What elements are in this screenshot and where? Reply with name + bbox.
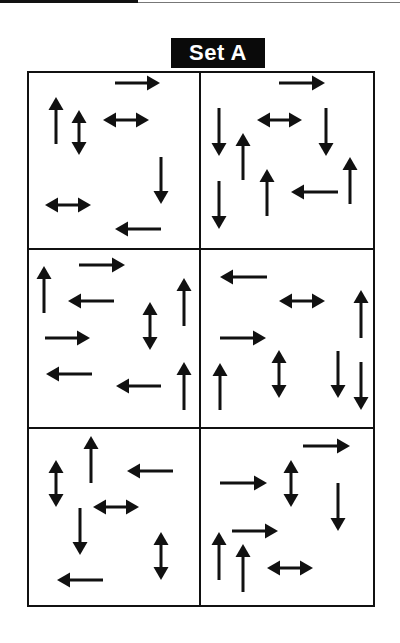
panel-r2c2 [213, 270, 369, 411]
arrow-double-horizontal-icon [267, 561, 313, 576]
arrow-up-icon [49, 97, 64, 144]
arrow-grid-diagram [0, 0, 400, 643]
arrow-up-icon [84, 436, 99, 483]
arrow-up-icon [37, 266, 52, 313]
arrow-up-icon [236, 133, 251, 180]
arrow-up-icon [177, 362, 192, 410]
arrow-right-icon [115, 76, 160, 91]
arrow-up-icon [343, 157, 358, 204]
arrow-down-icon [354, 362, 369, 410]
arrow-right-icon [45, 331, 90, 346]
arrow-down-icon [331, 351, 346, 398]
panel-r2c1 [37, 258, 192, 411]
arrow-down-icon [154, 157, 169, 204]
arrow-down-icon [73, 508, 88, 555]
arrow-double-horizontal-icon [279, 294, 325, 309]
panel-r3c2 [212, 439, 351, 593]
arrow-down-icon [319, 108, 334, 156]
arrow-double-horizontal-icon [257, 113, 302, 128]
arrow-double-vertical-icon [284, 460, 299, 507]
arrow-right-icon [303, 439, 350, 454]
arrow-right-icon [279, 76, 325, 91]
arrow-left-icon [116, 379, 161, 394]
arrow-double-vertical-icon [143, 302, 158, 350]
arrow-double-vertical-icon [272, 350, 287, 398]
arrow-down-icon [212, 181, 227, 229]
arrow-up-icon [177, 278, 192, 326]
arrow-left-icon [127, 464, 173, 479]
arrow-left-icon [68, 294, 114, 309]
panel-r1c2 [212, 76, 358, 230]
arrow-double-horizontal-icon [93, 500, 139, 515]
arrow-right-icon [220, 331, 266, 346]
arrow-right-icon [232, 524, 278, 539]
arrow-up-icon [236, 544, 251, 592]
arrow-left-icon [220, 270, 267, 285]
panel-r3c1 [49, 436, 174, 588]
panel-r1c1 [45, 76, 169, 237]
arrow-up-icon [260, 169, 275, 216]
arrow-right-icon [79, 258, 125, 273]
arrow-left-icon [46, 367, 92, 382]
arrow-up-icon [212, 532, 227, 580]
arrow-left-icon [57, 573, 103, 588]
arrow-up-icon [213, 363, 228, 410]
arrow-down-icon [212, 108, 227, 156]
arrow-double-vertical-icon [154, 532, 169, 580]
arrow-left-icon [115, 222, 161, 237]
arrow-double-vertical-icon [72, 110, 87, 155]
arrow-up-icon [354, 290, 369, 338]
arrow-double-horizontal-icon [103, 113, 149, 128]
arrow-right-icon [220, 476, 267, 491]
arrow-left-icon [291, 185, 338, 200]
arrow-down-icon [331, 483, 346, 531]
arrow-double-vertical-icon [49, 460, 64, 507]
arrow-double-horizontal-icon [45, 198, 91, 213]
